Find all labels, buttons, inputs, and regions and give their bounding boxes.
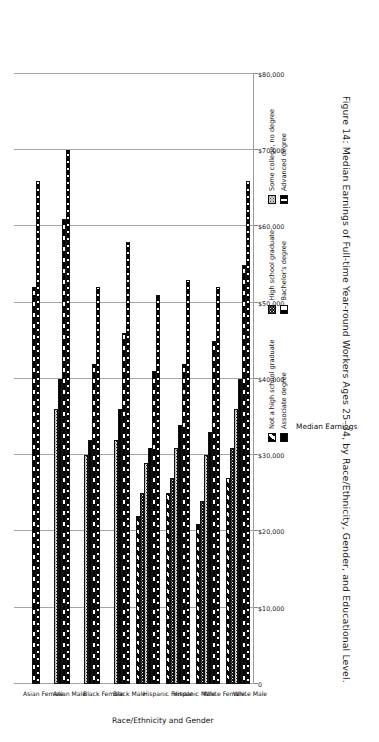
legend-swatch-icon bbox=[280, 305, 288, 314]
legend-swatch-icon bbox=[268, 305, 276, 314]
bar bbox=[156, 295, 160, 684]
legend-item[interactable]: Bachelor's degree bbox=[280, 230, 288, 313]
category-label: White Male bbox=[233, 690, 267, 697]
legend-swatch-icon bbox=[268, 195, 276, 204]
legend-swatch-icon bbox=[268, 433, 276, 442]
category-axis-title: Race/Ethnicity and Gender bbox=[112, 716, 214, 725]
legend-column: High school graduateBachelor's degree bbox=[268, 230, 288, 313]
bar bbox=[66, 150, 70, 684]
legend-column: Not a high school graduateAssociate degr… bbox=[268, 340, 288, 442]
bar-group bbox=[196, 288, 220, 685]
bar bbox=[246, 181, 250, 684]
legend-label: Not a high school graduate bbox=[268, 340, 276, 429]
legend-swatch-icon bbox=[280, 433, 288, 442]
chart-plot-area bbox=[14, 74, 254, 684]
category-label: Black Male bbox=[113, 690, 146, 697]
legend-label: High school graduate bbox=[268, 230, 276, 300]
legend-item[interactable]: Some college, no degree bbox=[268, 109, 276, 204]
bar-group bbox=[46, 150, 70, 684]
bar-group bbox=[136, 295, 160, 684]
legend-label: Bachelor's degree bbox=[280, 241, 288, 300]
bar bbox=[216, 288, 220, 685]
value-tick-label: $10,000 bbox=[258, 605, 284, 613]
legend-item[interactable]: High school graduate bbox=[268, 230, 276, 313]
legend-item[interactable]: Not a high school graduate bbox=[268, 340, 276, 442]
bar bbox=[36, 181, 40, 684]
legend-column: Some college, no degreeAdvanced degree bbox=[268, 109, 288, 204]
bar-group bbox=[106, 242, 130, 684]
figure-caption: Figure 14: Median Earnings of Full-time … bbox=[341, 96, 352, 736]
legend-swatch-icon bbox=[280, 195, 288, 204]
legend-item[interactable]: Associate degree bbox=[280, 340, 288, 442]
value-tick-label: $20,000 bbox=[258, 529, 284, 537]
legend-label: Advanced degree bbox=[280, 133, 288, 191]
figure-caption-wrap: Figure 14: Median Earnings of Full-time … bbox=[352, 96, 376, 716]
bar-group bbox=[166, 280, 190, 684]
bar-group bbox=[226, 181, 250, 684]
bar bbox=[186, 280, 190, 684]
bar-group bbox=[16, 181, 40, 684]
chart-legend: Not a high school graduateAssociate degr… bbox=[268, 109, 288, 442]
category-label: Asian Male bbox=[53, 690, 86, 697]
bar bbox=[96, 288, 100, 685]
value-tick-label: $30,000 bbox=[258, 452, 284, 460]
rotated-figure-canvas: $80,000$70,000$60,000$50,000$40,000$30,0… bbox=[0, 0, 379, 742]
bar-group bbox=[76, 288, 100, 685]
legend-label: Some college, no degree bbox=[268, 109, 276, 191]
gridline bbox=[14, 73, 254, 74]
category-axis-line bbox=[253, 74, 254, 684]
legend-label: Associate degree bbox=[280, 372, 288, 429]
bar bbox=[126, 242, 130, 684]
legend-item[interactable]: Advanced degree bbox=[280, 109, 288, 204]
value-tick-label: $80,000 bbox=[258, 71, 284, 79]
value-tick-label: 0 bbox=[258, 681, 262, 689]
